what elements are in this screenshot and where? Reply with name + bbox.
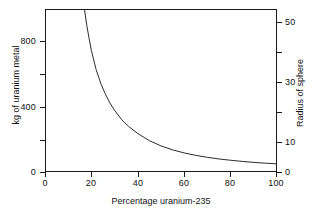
tick-right-50 [277,22,282,23]
xtick-label-60: 60 [164,178,204,188]
critical-mass-curve [84,9,277,164]
tick-bottom-40 [138,172,139,177]
xtick-label-100: 100 [256,178,296,188]
tick-left-400 [40,107,45,108]
y-axis-title-left: kg of uranium metal [11,35,21,135]
chart-figure: 800 400 0 50 30 10 0 0 20 40 60 80 100 k… [0,0,315,217]
tick-left-800 [40,41,45,42]
xtick-label-20: 20 [71,178,111,188]
tick-bottom-80 [230,172,231,177]
curve-plot [45,9,277,172]
x-axis-title: Percentage uranium-235 [45,196,277,206]
y-axis-title-right: Radius of sphere [295,43,305,143]
tick-left-600 [40,74,45,75]
tick-right-0 [277,172,282,173]
tick-bottom-60 [184,172,185,177]
tick-right-40 [277,52,282,53]
tick-bottom-100 [276,172,277,177]
tick-bottom-20 [91,172,92,177]
y2tick-label-50: 50 [285,17,315,27]
tick-left-200 [40,140,45,141]
xtick-label-80: 80 [210,178,250,188]
tick-bottom-0 [45,172,46,177]
ytick-label-0: 0 [4,167,36,177]
tick-right-30 [277,82,282,83]
tick-right-10 [277,142,282,143]
y2tick-label-0: 0 [285,167,315,177]
tick-right-20 [277,112,282,113]
xtick-label-40: 40 [118,178,158,188]
xtick-label-0: 0 [25,178,65,188]
